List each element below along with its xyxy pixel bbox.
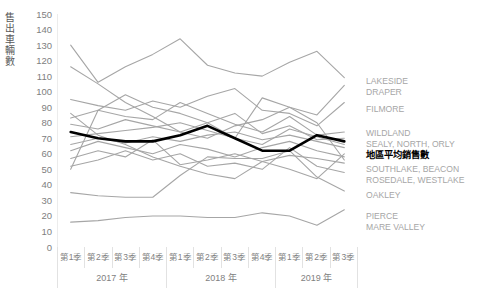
line-chart: 售出車輛數 1501401301201101009080706050403020… bbox=[0, 0, 481, 297]
series-line bbox=[71, 210, 345, 226]
y-axis-tick-label: 70 bbox=[26, 134, 52, 143]
x-axis-year-label: 2017 年 bbox=[57, 268, 167, 288]
legend-item-lakeside: LAKESIDEDRAPER bbox=[366, 76, 408, 97]
y-axis-tick-label: 30 bbox=[26, 196, 52, 205]
x-axis-quarter-label: 第2季 bbox=[194, 247, 221, 268]
x-axis-quarter-label: 第3季 bbox=[113, 247, 140, 268]
legend-label: SOUTHLAKE, BEACON bbox=[366, 164, 464, 175]
y-axis-tick-label: 60 bbox=[26, 149, 52, 158]
y-axis-tick-label: 140 bbox=[26, 25, 52, 34]
y-axis-tick-label: 50 bbox=[26, 165, 52, 174]
series-line bbox=[71, 89, 345, 126]
x-axis-quarter-label: 第3季 bbox=[331, 247, 358, 268]
x-axis-quarter-row: 第1季第2季第3季第4季第1季第2季第3季第4季第1季第2季第3季 bbox=[57, 247, 358, 268]
y-axis-tick-label: 100 bbox=[26, 87, 52, 96]
legend-label: FILMORE bbox=[366, 104, 404, 115]
legend-label: LAKESIDE bbox=[366, 76, 408, 87]
y-axis-tick-label: 80 bbox=[26, 118, 52, 127]
legend-item-filmore: FILMORE bbox=[366, 104, 404, 115]
legend-label: PIERCE bbox=[366, 211, 425, 222]
y-axis-tick-label: 40 bbox=[26, 180, 52, 189]
x-axis-quarter-label: 第1季 bbox=[57, 247, 85, 268]
x-axis-quarter-label: 第1季 bbox=[167, 247, 194, 268]
x-axis-quarter-label: 第2季 bbox=[85, 247, 112, 268]
legend-item-pierce: PIERCEMARE VALLEY bbox=[366, 211, 425, 232]
x-axis-year-row: 2017 年2018 年2019 年 bbox=[57, 268, 358, 288]
y-axis-tick-label: 90 bbox=[26, 103, 52, 112]
x-axis-quarter-label: 第4季 bbox=[249, 247, 276, 268]
x-axis-quarter-label: 第2季 bbox=[303, 247, 330, 268]
legend-label: ROSEDALE, WESTLAKE bbox=[366, 175, 464, 186]
legend-item-oakley: OAKLEY bbox=[366, 190, 400, 201]
x-axis-year-label: 2018 年 bbox=[167, 268, 276, 288]
y-axis-title: 售出車輛數 bbox=[2, 12, 18, 67]
legend-label: DRAPER bbox=[366, 87, 408, 98]
legend-label: OAKLEY bbox=[366, 190, 400, 201]
y-axis-tick-label: 10 bbox=[26, 227, 52, 236]
y-axis-tick-label: 20 bbox=[26, 211, 52, 220]
chart-legend: LAKESIDEDRAPERFILMOREWILDLANDSEALY, NORT… bbox=[366, 0, 481, 297]
legend-label: MARE VALLEY bbox=[366, 222, 425, 233]
y-axis-ticks: 1501401301201101009080706050403020100 bbox=[20, 0, 52, 297]
x-axis-quarter-label: 第3季 bbox=[222, 247, 249, 268]
y-axis-tick-label: 130 bbox=[26, 41, 52, 50]
legend-item-average: 地區平均銷售數 bbox=[366, 150, 429, 161]
x-axis-quarter-label: 第1季 bbox=[276, 247, 303, 268]
plot-area bbox=[57, 14, 358, 247]
legend-label: WILDLAND bbox=[366, 128, 455, 139]
y-axis-tick-label: 0 bbox=[26, 243, 52, 252]
y-axis-tick-label: 150 bbox=[26, 10, 52, 19]
y-axis-tick-label: 110 bbox=[26, 72, 52, 81]
legend-item-wildland: WILDLANDSEALY, NORTH, ORLY bbox=[366, 128, 455, 149]
x-axis: 第1季第2季第3季第4季第1季第2季第3季第4季第1季第2季第3季 2017 年… bbox=[57, 247, 358, 291]
legend-item-southlake: SOUTHLAKE, BEACONROSEDALE, WESTLAKE bbox=[366, 164, 464, 185]
x-axis-year-label: 2019 年 bbox=[276, 268, 358, 288]
legend-label: SEALY, NORTH, ORLY bbox=[366, 139, 455, 150]
x-axis-quarter-label: 第4季 bbox=[140, 247, 167, 268]
y-axis-tick-label: 120 bbox=[26, 56, 52, 65]
legend-label: 地區平均銷售數 bbox=[366, 150, 429, 161]
series-line bbox=[71, 39, 345, 83]
